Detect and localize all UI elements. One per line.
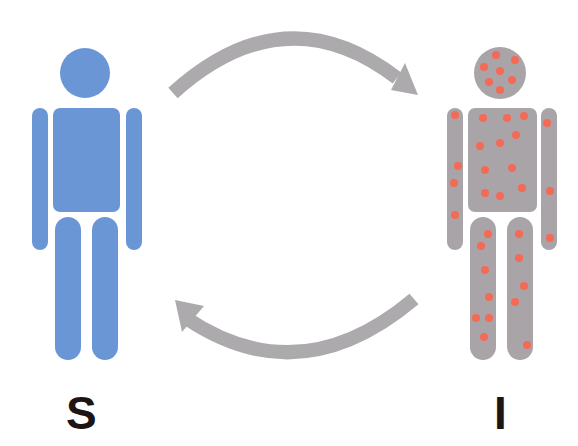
infected-label: I xyxy=(494,390,507,436)
si-diagram xyxy=(0,0,578,446)
infected-person-icon xyxy=(447,47,557,360)
susceptible-label: S xyxy=(66,390,97,436)
susceptible-person-icon xyxy=(32,48,142,360)
arrow-i-to-s-icon xyxy=(175,299,414,352)
arrow-s-to-i-icon xyxy=(173,38,418,95)
